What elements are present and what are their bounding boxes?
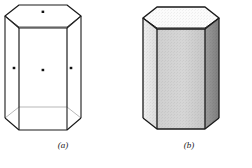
caption-a: (a) — [0, 141, 126, 150]
silhouette-vertical-edges — [5, 16, 81, 118]
top-face-center-dot — [42, 11, 45, 13]
right-face-center-dot — [70, 67, 73, 69]
hexagonal-prism-wireframe-diagram — [0, 0, 126, 140]
front-lateral-face — [157, 29, 205, 129]
hidden-base-edges — [5, 107, 81, 118]
front-vertical-edges — [19, 28, 67, 130]
visible-base-edges — [5, 118, 81, 130]
left-lateral-face — [143, 18, 157, 129]
left-face-center-dot — [13, 67, 16, 69]
front-face-center-dot — [42, 69, 45, 71]
caption-b: (b) — [126, 141, 252, 150]
figure-plate: (a) — [0, 0, 252, 168]
figure-panel-b: (b) — [126, 0, 252, 168]
hexagonal-prism-shaded-diagram — [126, 0, 252, 140]
top-hexagon-face — [5, 5, 81, 28]
figure-panel-a: (a) — [0, 0, 126, 168]
right-lateral-face — [205, 18, 219, 129]
